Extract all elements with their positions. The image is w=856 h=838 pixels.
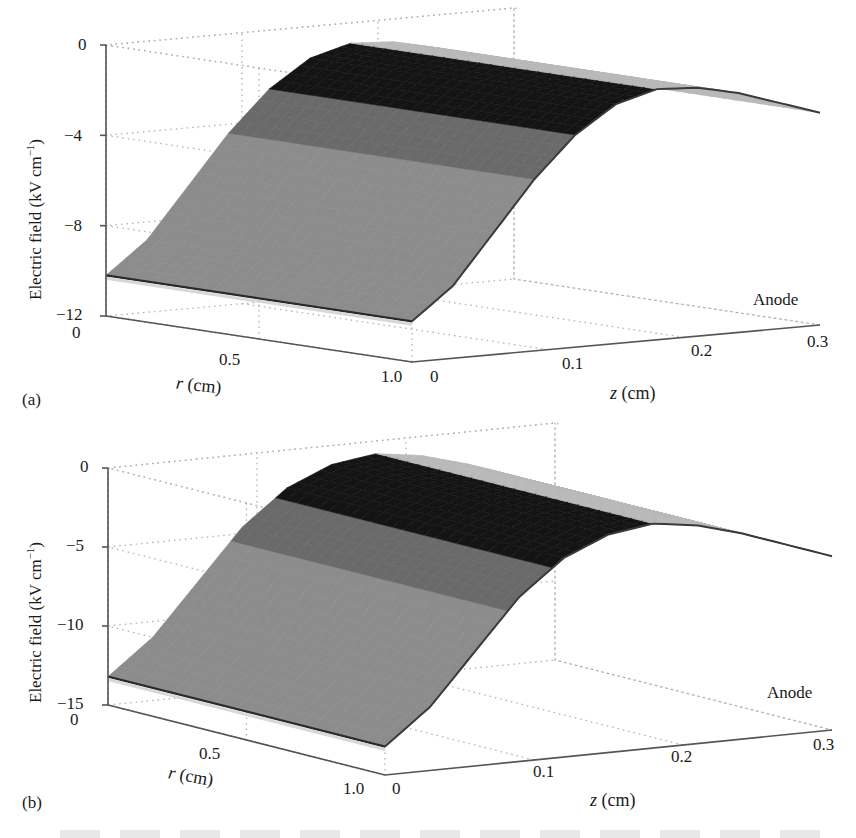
surface-plot-a xyxy=(0,0,856,410)
z-axis-label-a: z (cm) xyxy=(610,383,656,404)
ztick-b-2: 0.2 xyxy=(671,748,692,765)
ytick-b-0: 0 xyxy=(80,458,89,475)
panel-label-a: (a) xyxy=(22,390,41,410)
ytick-a-1: −4 xyxy=(64,127,82,144)
ztick-a-2: 0.2 xyxy=(691,342,712,359)
surface xyxy=(106,42,820,325)
rtick-b-2: 1.0 xyxy=(343,780,364,797)
ztick-b-3: 0.3 xyxy=(813,736,834,753)
ytick-a-2: −8 xyxy=(64,217,82,234)
rtick-b-1: 0.5 xyxy=(199,745,220,762)
panel-a: 0 −4 −8 −12 Electric field (kV cm−1) 0 0… xyxy=(0,0,856,410)
ytick-a-3: −12 xyxy=(56,306,83,323)
y-axis-label-a: Electric field (kV cm−1) xyxy=(24,139,46,300)
rtick-a-0: 0 xyxy=(72,324,81,341)
rtick-b-0: 0 xyxy=(70,711,79,728)
ytick-b-2: −10 xyxy=(57,616,84,633)
anode-label-b: Anode xyxy=(767,683,812,703)
ztick-a-0: 0 xyxy=(430,368,439,385)
ztick-b-1: 0.1 xyxy=(533,763,554,780)
ztick-a-1: 0.1 xyxy=(562,355,583,372)
z-axis-label-b: z (cm) xyxy=(590,790,636,811)
rtick-a-1: 0.5 xyxy=(219,351,240,368)
ztick-b-0: 0 xyxy=(392,780,401,797)
ytick-b-1: −5 xyxy=(66,537,84,554)
y-axis-label-b: Electric field (kV cm−1) xyxy=(24,542,46,703)
anode-label-a: Anode xyxy=(753,290,798,310)
ztick-a-3: 0.3 xyxy=(807,333,828,350)
panel-b: 0 −5 −10 −15 Electric field (kV cm−1) 0 … xyxy=(0,418,856,828)
rtick-a-2: 1.0 xyxy=(381,368,402,385)
ytick-a-0: 0 xyxy=(78,36,87,53)
panel-label-b: (b) xyxy=(22,793,42,813)
surface-plot-b xyxy=(0,418,856,828)
clipped-caption xyxy=(60,830,840,838)
surface xyxy=(108,454,832,750)
